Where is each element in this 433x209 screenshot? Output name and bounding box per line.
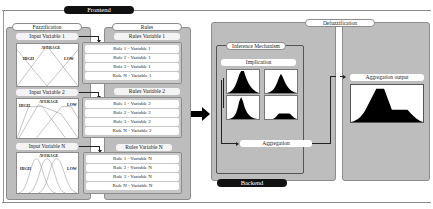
- clipped-curve-icon: [265, 96, 297, 119]
- arrow-right-icon: [236, 142, 239, 146]
- rule-item: Rule 1 - Variable N: [86, 155, 179, 163]
- mf-label-high: HIGH: [20, 166, 31, 171]
- rules-variable-1-label: Rules Variable 1: [114, 33, 180, 40]
- rules-group-2: Rule 1 - Variable 2 Rule 2 - Variable 2 …: [82, 97, 182, 138]
- implication-chart-4: [264, 95, 298, 120]
- bell-curve-icon: [265, 70, 297, 93]
- mf-chart-variable-2: AVERAGE HIGH LOW: [16, 98, 79, 139]
- mf-label-average: AVERAGE: [39, 153, 59, 158]
- rule-item: Rule 3 - Variable 2: [85, 118, 179, 126]
- bell-curve-icon: [227, 70, 259, 93]
- rules-title: Rules: [112, 23, 182, 31]
- input-variable-n-label: Input Variable N: [16, 143, 78, 150]
- mf-label-low: LOW: [67, 102, 77, 107]
- aggregation-output-chart: [350, 84, 424, 123]
- rule-item: Rule N - Variable 2: [85, 127, 179, 135]
- arrow-right-icon: [343, 75, 346, 79]
- mf-label-low: LOW: [64, 56, 74, 61]
- input-variable-2-label: Input Variable 2: [16, 89, 78, 96]
- implication-chart-2: [264, 69, 298, 94]
- bottom-divider: [2, 202, 431, 203]
- mf-label-average: AVERAGE: [39, 99, 59, 104]
- aggregation-output-label: Aggregation output: [350, 74, 424, 81]
- backend-label: Backend: [217, 179, 287, 187]
- implication-chart-3: [226, 95, 260, 120]
- rule-item: Rule 2 - Variable 1: [85, 54, 179, 62]
- rules-group-1: Rule 1 - Variable 1 Rule 2 - Variable 1 …: [82, 42, 182, 84]
- connector-input-1: [79, 36, 98, 37]
- mf-label-high: HIGH: [23, 56, 34, 61]
- mf-label-low: LOW: [67, 166, 77, 171]
- connector-aggregation-output-up: [330, 76, 331, 144]
- rule-item: Rule N - Variable N: [86, 182, 179, 190]
- mf-label-average: AVERAGE: [41, 45, 61, 50]
- connector-input-2: [79, 92, 98, 93]
- rule-item: Rule 2 - Variable 2: [85, 109, 179, 117]
- aggregation-label: Aggregation: [240, 140, 312, 147]
- defuzzification-title: Defuzzification: [305, 19, 375, 27]
- bracket-line: [221, 80, 222, 143]
- rule-item: Rule 3 - Variable 1: [85, 63, 179, 71]
- rule-item: Rule 1 - Variable 1: [85, 45, 179, 53]
- left-frame-edge: [3, 10, 4, 202]
- triangular-mf-icon: [17, 44, 78, 86]
- rules-group-n: Rule 1 - Variable N Rule 2 - Variable N …: [83, 152, 182, 194]
- section-divider: [336, 27, 340, 177]
- rules-variable-n-label: Rules Variable N: [116, 144, 172, 151]
- rules-variable-2-label: Rules Variable 2: [114, 88, 180, 95]
- implication-label: Implication: [221, 59, 296, 66]
- frontend-label: Frontend: [64, 6, 134, 14]
- input-variable-1-label: Input Variable 1: [16, 33, 78, 40]
- rule-item: Rule 2 - Variable N: [86, 164, 179, 172]
- mf-chart-variable-n: AVERAGE HIGH LOW: [16, 152, 79, 194]
- rule-item: Rule N - Variable 1: [85, 72, 179, 80]
- aggregated-curve-icon: [351, 85, 423, 122]
- rule-item: Rule 1 - Variable 2: [85, 100, 179, 108]
- mf-chart-variable-1: AVERAGE HIGH LOW: [16, 43, 79, 87]
- inference-mechanism-title: Inference Mechanism: [226, 42, 286, 50]
- connector-aggregation-output: [312, 143, 330, 144]
- fuzzification-title: Fuzzification: [12, 23, 82, 31]
- bracket-line: [223, 78, 224, 108]
- bell-curve-icon: [227, 96, 259, 119]
- connector-input-n: [79, 146, 99, 147]
- rule-item: Rule 3 - Variable N: [86, 173, 179, 181]
- gaussian-mf-icon: [17, 153, 78, 193]
- mf-label-high: HIGH: [19, 103, 30, 108]
- implication-chart-1: [226, 69, 260, 94]
- big-arrow-head: [202, 107, 210, 121]
